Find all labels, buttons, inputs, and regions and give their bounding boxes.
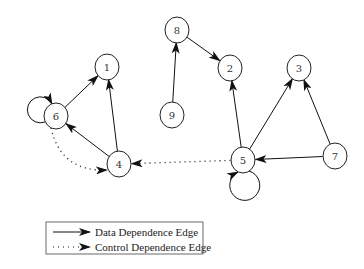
node-label: 7 bbox=[332, 151, 338, 162]
node-label: 4 bbox=[116, 159, 122, 170]
node-label: 5 bbox=[240, 155, 246, 166]
node-label: 3 bbox=[296, 63, 302, 74]
legend-data-label: Data Dependence Edge bbox=[95, 226, 198, 238]
node-label: 2 bbox=[227, 63, 233, 74]
data-edge-5-3 bbox=[249, 79, 292, 150]
node-4: 4 bbox=[107, 151, 131, 177]
legend: Data Dependence Edge Control Dependence … bbox=[46, 222, 211, 254]
node-label: 1 bbox=[104, 62, 110, 73]
legend-control-label: Control Dependence Edge bbox=[95, 241, 211, 253]
data-edge-7-5 bbox=[255, 157, 322, 160]
data-edge-8-2 bbox=[187, 37, 220, 60]
nodes-layer: 123456789 bbox=[44, 17, 347, 177]
node-3: 3 bbox=[287, 55, 311, 81]
data-edge-6-1 bbox=[65, 76, 98, 108]
dependence-graph: 123456789 Data Dependence Edge Control D… bbox=[0, 0, 364, 269]
node-label: 8 bbox=[174, 25, 180, 36]
data-edge-5-2 bbox=[232, 80, 242, 147]
control-edge-5-4 bbox=[131, 160, 230, 163]
node-6: 6 bbox=[44, 103, 68, 129]
node-9: 9 bbox=[160, 102, 184, 128]
data-edge-4-6 bbox=[66, 124, 109, 157]
node-7: 7 bbox=[323, 143, 347, 169]
node-label: 9 bbox=[169, 110, 175, 121]
node-5: 5 bbox=[231, 147, 255, 173]
data-edge-4-1 bbox=[109, 79, 118, 151]
node-1: 1 bbox=[95, 54, 119, 80]
node-label: 6 bbox=[53, 111, 59, 122]
data-edge-5-5 bbox=[230, 171, 260, 200]
data-edge-7-3 bbox=[304, 80, 331, 145]
node-8: 8 bbox=[165, 17, 189, 43]
data-edge-9-8 bbox=[173, 42, 177, 102]
node-2: 2 bbox=[218, 55, 242, 81]
